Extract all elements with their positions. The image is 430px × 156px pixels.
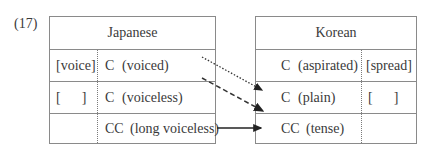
mapping-arrows	[0, 0, 430, 156]
dashed-arrow	[202, 78, 263, 111]
dotted-arrow	[202, 57, 262, 90]
